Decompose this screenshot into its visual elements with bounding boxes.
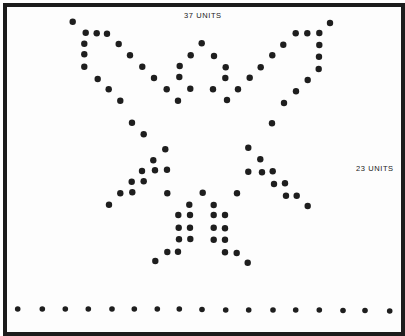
figure-dot [175,98,181,104]
figure-dot [81,41,87,47]
figure-dot [141,178,147,184]
figure-dot [222,249,228,255]
figure-dot [234,250,240,256]
figure-dot [162,146,168,152]
figure-dot [222,212,228,218]
figure-dot [258,64,264,70]
figure-dot [151,75,157,81]
figure-dot [224,97,230,103]
baseline-dot [270,307,276,313]
figure-dot [245,145,251,151]
figure-dot [164,86,170,92]
baseline-dot [109,306,115,312]
figure-dot [187,212,193,218]
figure-dot [129,179,135,185]
figure-dot [129,120,135,126]
figure-dot [117,190,123,196]
figure-dot [222,237,228,243]
height-label: 23 UNITS [356,165,394,173]
figure-dot [283,193,289,199]
figure-dot [316,54,322,60]
figure-dot [106,86,112,92]
figure-dot [150,157,156,163]
baseline-dot [63,306,69,312]
figure-dot [282,180,288,186]
figure-dot [211,225,217,231]
figure-dot [305,203,311,209]
figure-dot [269,52,275,58]
figure-dot [164,167,170,173]
baseline-dot [15,306,21,312]
figure-dot [223,64,229,70]
figure-dot [116,41,122,47]
figure-dot [210,86,216,92]
baseline-dot [293,307,299,313]
figure-dot [293,88,299,94]
figure-dot [200,190,206,196]
figure-dot [70,19,76,25]
baseline-dot [177,306,183,312]
baseline-dot [246,307,252,313]
figure-dot [139,63,145,69]
figure-dot [235,86,241,92]
figure-dot [281,100,287,106]
figure-dot [177,63,183,69]
figure-dot [316,30,322,36]
figure-dot [152,258,158,264]
baseline-dot [387,308,393,314]
figure-dot [247,75,253,81]
figure-dot [199,40,205,46]
figure-dot [327,20,333,26]
baseline-dot [199,307,205,313]
figure-dot [81,63,87,69]
figure-dot [269,120,275,126]
figure-dot [245,260,251,266]
figure-dot [83,30,89,36]
figure-dot [141,131,147,137]
figure-dot [270,168,276,174]
figure-dot [293,30,299,36]
figure-dot [304,30,310,36]
baseline-dot [317,307,323,313]
baseline-dot [155,306,161,312]
figure-dot [127,52,133,58]
figure-dot [186,202,192,208]
figure-dot [294,193,300,199]
figure-dots [70,19,334,266]
baseline-dot [86,306,92,312]
figure-dot [187,236,193,242]
figure-dot [175,249,181,255]
figure-dot [234,190,240,196]
figure-dot [188,52,194,58]
baseline-dots [15,306,393,314]
figure-dot [211,53,217,59]
baseline-dot [362,308,368,314]
figure-dot [176,74,182,80]
figure-dot [139,168,145,174]
baseline-dot [340,308,346,314]
figure-dot [187,86,193,92]
figure-dot [164,190,170,196]
figure-dot [280,42,286,48]
baseline-dot [132,306,138,312]
figure-dot [222,75,228,81]
figure-dot [106,202,112,208]
figure-dot [81,51,87,57]
figure-dot [95,76,101,82]
figure-dot [94,30,100,36]
figure-dot [316,66,322,72]
figure-dot [187,225,193,231]
figure-dot [176,236,182,242]
figure-dot [104,31,110,37]
figure-dot [222,225,228,231]
figure-dot [152,167,158,173]
figure-dot [175,212,181,218]
figure-dot [211,237,217,243]
figure-dot [245,169,251,175]
figure-dot [211,202,217,208]
figure-dot [176,225,182,231]
figure-dot [257,156,263,162]
figure-dot [164,249,170,255]
figure-dot [259,169,265,175]
